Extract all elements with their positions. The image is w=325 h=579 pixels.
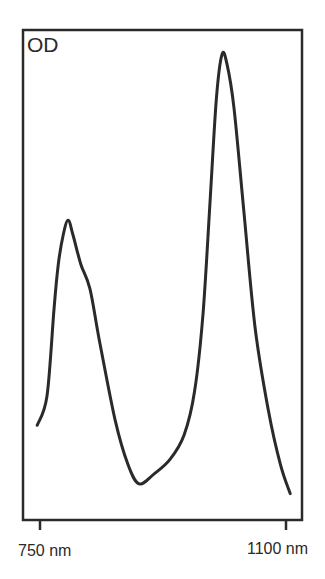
spectrum-chart: [0, 0, 325, 579]
x-tick-label-750: 750 nm: [18, 542, 71, 560]
y-axis-label: OD: [27, 33, 59, 57]
x-tick-label-1100: 1100 nm: [247, 540, 308, 558]
plot-frame: [23, 30, 302, 520]
spectrum-curve: [37, 52, 290, 493]
